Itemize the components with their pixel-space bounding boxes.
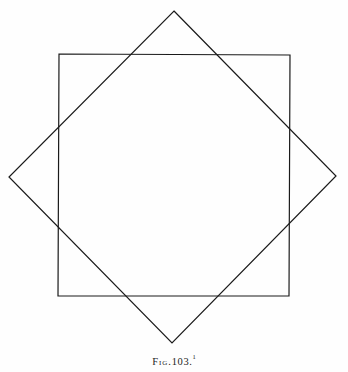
figure-drawing-canvas	[0, 0, 348, 372]
figure-caption-footnote-marker: 1	[192, 353, 195, 360]
page-background	[0, 0, 348, 372]
figure-caption-label: Fig.	[152, 356, 171, 367]
figure-caption-number: 103.	[172, 356, 193, 367]
figure-page: Fig.103.1	[0, 0, 348, 372]
figure-caption: Fig.103.1	[0, 352, 348, 368]
